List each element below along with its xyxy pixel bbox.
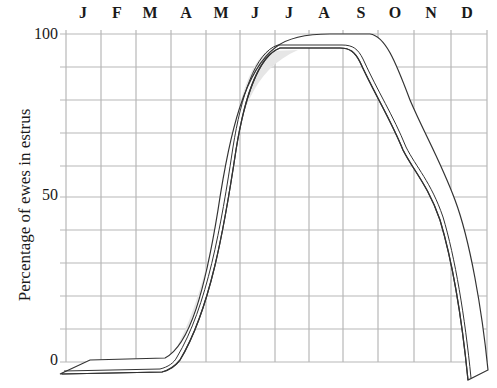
ribbon-upper <box>60 34 488 380</box>
grid <box>60 30 487 362</box>
ribbon-front-edge-inner <box>64 45 471 378</box>
ribbon-shade <box>172 50 298 356</box>
chart-plot <box>0 0 497 388</box>
